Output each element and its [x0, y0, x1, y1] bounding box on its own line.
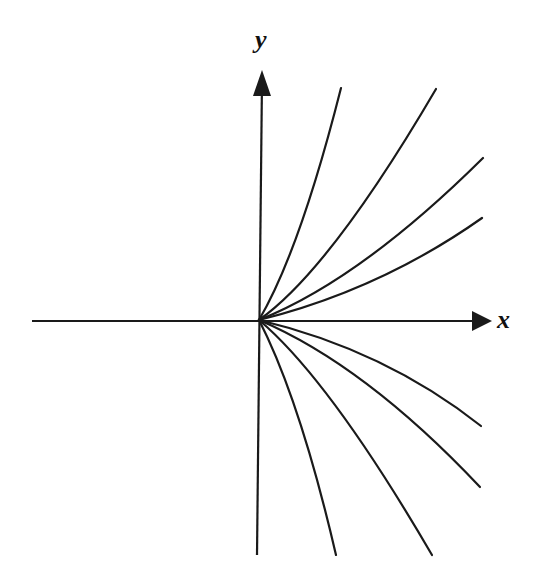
- y-axis-arrowhead-icon: [253, 70, 271, 96]
- y-axis-label: y: [252, 25, 267, 54]
- lower-trajectory-curve: [259, 320, 480, 487]
- upper-trajectory-curve: [259, 89, 436, 320]
- x-axis-arrowhead-icon: [472, 311, 492, 331]
- x-axis-label: x: [496, 305, 510, 334]
- phase-portrait-diagram: x y: [0, 0, 539, 587]
- lower-trajectory-curve: [259, 320, 432, 555]
